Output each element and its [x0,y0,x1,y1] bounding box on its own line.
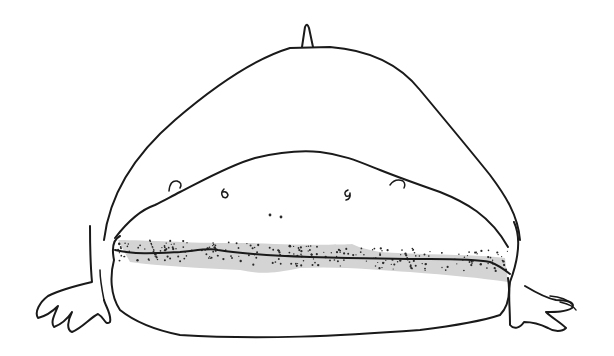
left-eye-icon [222,189,228,198]
left-fin-detail [100,270,104,300]
right-fin [509,222,573,331]
right-eye-icon [345,190,350,200]
dorsal-fin [302,25,313,47]
illustration-canvas [0,0,614,356]
lip-shading [118,240,508,282]
right-nostril [280,216,283,219]
face-outline [115,151,508,247]
body-outline [104,47,520,240]
blobfish-illustration [0,0,614,356]
left-fin [37,226,111,332]
left-ear [169,181,181,191]
left-nostril [269,214,272,217]
right-ear [390,180,405,188]
